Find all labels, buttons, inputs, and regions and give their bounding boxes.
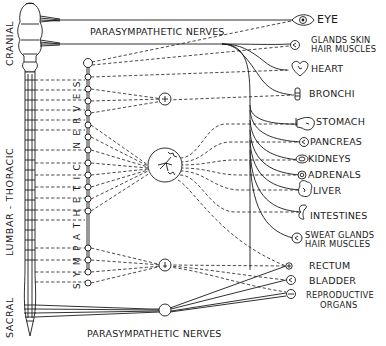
region-label-cranial: CRANIAL: [4, 21, 15, 66]
bronchi-icon: [295, 88, 300, 100]
autonomic-nervous-system-diagram: .s { stroke:#1a1a1a; fill:none; stroke-w…: [0, 0, 386, 346]
spinal-cord: [24, 72, 35, 336]
reproductive-icon: [287, 290, 296, 299]
organ-label-kidneys: KIDNEYS: [308, 154, 351, 164]
parasympathetic-nerves-bottom-label: PARASYMPATHETIC NERVES: [87, 329, 222, 339]
parasympathetic-nerves-top-label: PARASYMPATHETIC NERVES: [90, 27, 225, 37]
sweat-glands-icon: [292, 233, 302, 243]
glands-skin-icon: [291, 41, 300, 50]
region-label-sacral: SACRAL: [4, 297, 15, 338]
organ-label-adrenals: ADRENALS: [308, 170, 361, 180]
adrenals-icon: [298, 171, 306, 179]
organ-label-reproductive: REPRODUCTIVE: [306, 291, 374, 300]
organ-label-intestines: INTESTINES: [310, 211, 368, 221]
sympathetic-nerves-label: SYMPATHETIC NERVES: [72, 75, 82, 289]
organ-label-pancreas: PANCREAS: [310, 137, 362, 147]
chain-ganglia: [84, 59, 93, 287]
organ-label-bronchi: BRONCHI: [309, 89, 355, 99]
organ-label-rectum: RECTUM: [309, 261, 350, 271]
bladder-icon: [287, 276, 296, 285]
kidneys-icon: [296, 155, 308, 163]
region-label-lumbar-thoracic: LUMBAR - THORACIC: [4, 148, 15, 256]
organ-label-heart: HEART: [311, 64, 343, 74]
organ-label-eye: EYE: [317, 15, 338, 25]
eye-icon: [292, 15, 314, 26]
stomach-icon: [296, 117, 314, 130]
collateral-ganglion-lower: [159, 259, 171, 271]
coeliac-ganglion: [148, 148, 182, 182]
organ-label-reproductive-line2: ORGANS: [320, 301, 357, 310]
brain-and-spinal-cord: [18, 3, 43, 336]
organ-label-liver: LIVER: [313, 186, 341, 196]
organ-label-bladder: BLADDER: [309, 276, 356, 286]
collateral-ganglion-upper: [159, 93, 171, 105]
heart-icon: [292, 61, 308, 76]
organ-label-stomach: STOMACH: [316, 117, 365, 127]
pancreas-icon: [300, 138, 309, 147]
liver-icon: [299, 181, 312, 197]
rectum-icon: [286, 263, 292, 269]
organ-label-glands-skin-line2: HAIR MUSCLES: [311, 45, 376, 54]
intestines-icon: [299, 205, 307, 219]
organ-label-sweat-glands-line2: HAIR MUSCLES: [305, 240, 370, 249]
